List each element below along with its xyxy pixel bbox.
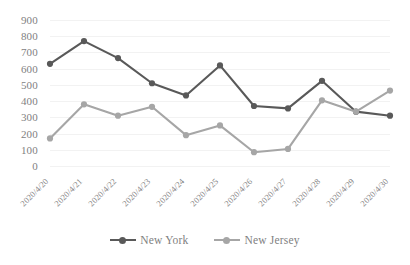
data-point	[387, 113, 393, 119]
x-tick-label: 2020/4/27	[257, 177, 288, 208]
legend-item[interactable]: New York	[110, 234, 188, 246]
x-tick-label: 2020/4/20	[19, 177, 50, 208]
y-tick-label: 600	[21, 63, 38, 74]
y-tick-label: 200	[21, 128, 38, 139]
x-axis: 2020/4/202020/4/212020/4/222020/4/232020…	[50, 168, 390, 226]
data-point	[149, 80, 155, 86]
x-tick-label: 2020/4/28	[291, 177, 322, 208]
legend-marker-icon	[119, 237, 126, 244]
y-tick-label: 800	[21, 31, 38, 42]
data-point	[217, 122, 223, 128]
y-tick-label: 0	[32, 161, 38, 172]
x-tick-label: 2020/4/22	[87, 177, 118, 208]
data-point	[319, 97, 325, 103]
data-point	[353, 109, 359, 115]
data-point	[149, 104, 155, 110]
plot-area	[50, 20, 390, 166]
y-tick-label: 400	[21, 96, 38, 107]
y-tick-label: 900	[21, 15, 38, 26]
legend-swatch-icon	[110, 235, 136, 245]
data-point	[115, 113, 121, 119]
data-point	[251, 149, 257, 155]
y-tick-label: 100	[21, 144, 38, 155]
legend-label: New Jersey	[244, 234, 299, 246]
data-point	[81, 38, 87, 44]
data-point	[285, 146, 291, 152]
series-line	[50, 91, 390, 153]
x-tick-label: 2020/4/23	[121, 177, 152, 208]
x-tick-label: 2020/4/29	[325, 177, 356, 208]
x-tick-label: 2020/4/24	[155, 177, 186, 208]
legend-marker-icon	[223, 237, 230, 244]
gridline	[50, 166, 390, 167]
y-tick-label: 500	[21, 79, 38, 90]
data-point	[81, 101, 87, 107]
data-point	[47, 61, 53, 67]
x-tick-label: 2020/4/21	[53, 177, 84, 208]
y-tick-label: 700	[21, 47, 38, 58]
x-tick-label: 2020/4/30	[359, 177, 390, 208]
data-point	[387, 87, 393, 93]
line-chart: 0100200300400500600700800900 2020/4/2020…	[0, 0, 410, 265]
data-point	[251, 103, 257, 109]
data-point	[47, 135, 53, 141]
legend-item[interactable]: New Jersey	[214, 234, 299, 246]
chart-legend: New YorkNew Jersey	[0, 230, 410, 250]
data-point	[319, 78, 325, 84]
y-tick-label: 300	[21, 112, 38, 123]
y-axis: 0100200300400500600700800900	[0, 20, 44, 166]
data-point	[183, 132, 189, 138]
x-tick-label: 2020/4/26	[223, 177, 254, 208]
series-line	[50, 41, 390, 116]
data-point	[183, 92, 189, 98]
series-layer	[50, 20, 390, 166]
legend-swatch-icon	[214, 235, 240, 245]
x-tick-label: 2020/4/25	[189, 177, 220, 208]
legend-label: New York	[140, 234, 188, 246]
data-point	[217, 62, 223, 68]
data-point	[115, 55, 121, 61]
data-point	[285, 105, 291, 111]
